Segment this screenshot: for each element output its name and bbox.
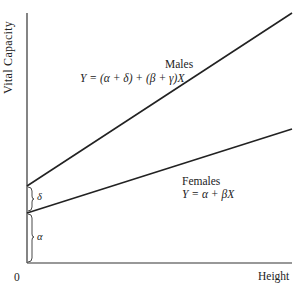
alpha-label: α	[37, 231, 43, 242]
y-axis-label: Vital Capacity	[1, 21, 16, 94]
females-label: Females	[182, 176, 220, 188]
diagram-canvas	[0, 0, 303, 290]
origin-label: 0	[14, 272, 20, 284]
males-equation: Y = (α + δ) + (β + γ)X	[80, 73, 184, 85]
x-axis-label: Height	[258, 271, 289, 283]
females-line	[27, 129, 292, 213]
males-line	[27, 13, 292, 186]
alpha-brace	[28, 214, 34, 262]
females-equation: Y = α + βX	[182, 189, 234, 201]
males-label: Males	[165, 59, 193, 71]
delta-label: δ	[37, 191, 42, 202]
delta-brace	[28, 187, 34, 211]
